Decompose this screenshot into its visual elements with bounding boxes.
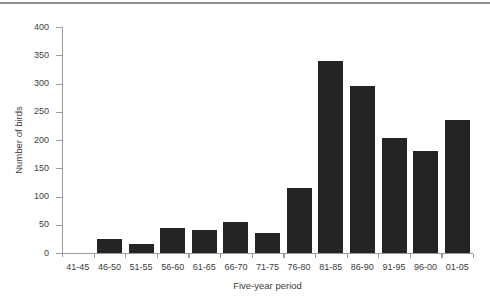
x-tick [441,254,442,258]
y-tick [56,27,62,28]
y-tick [56,168,62,169]
y-tick-label: 0 [0,249,49,258]
y-tick-label: 400 [0,23,49,32]
x-tick [220,254,221,258]
y-tick-label: 100 [0,192,49,201]
y-tick [56,112,62,113]
x-tick-label: 01-05 [437,262,477,272]
y-tick [56,197,62,198]
x-axis-line [62,253,473,254]
y-axis-line [62,27,63,257]
y-tick [56,84,62,85]
bar [192,230,217,253]
bar-chart: Number of birds Five-year period 0501001… [0,0,490,308]
bar [287,188,312,253]
y-tick-label: 250 [0,107,49,116]
x-tick [157,254,158,258]
bar [129,244,154,253]
x-tick [94,254,95,258]
x-tick [188,254,189,258]
y-tick-label: 200 [0,136,49,145]
y-tick-label: 150 [0,164,49,173]
y-tick [56,225,62,226]
x-tick [252,254,253,258]
x-tick [125,254,126,258]
y-tick [56,55,62,56]
x-tick [347,254,348,258]
x-axis-title: Five-year period [62,280,473,291]
bar [97,239,122,253]
y-tick-label: 300 [0,79,49,88]
x-tick [283,254,284,258]
chart-page: Number of birds Five-year period 0501001… [0,0,490,308]
bar [350,86,375,253]
bar [445,120,470,253]
bar [318,61,343,253]
bar [255,233,280,253]
bar [223,222,248,253]
x-tick [378,254,379,258]
y-tick [56,140,62,141]
y-tick [56,253,62,254]
x-tick [473,254,474,258]
y-tick-label: 50 [0,220,49,229]
x-tick [410,254,411,258]
y-tick-label: 350 [0,51,49,60]
bar [382,138,407,253]
bar [160,228,185,253]
bar [413,151,438,253]
x-tick [315,254,316,258]
